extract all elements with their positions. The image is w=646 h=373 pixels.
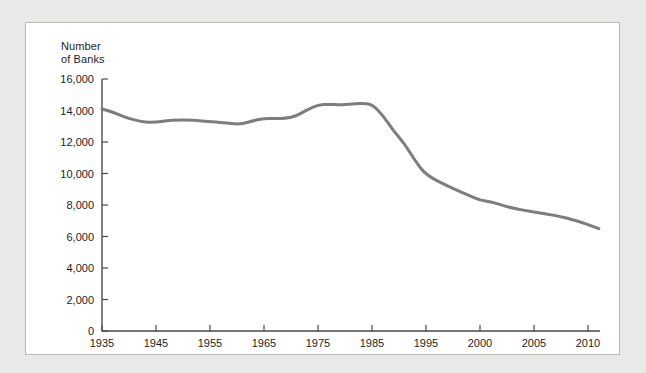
x-axis-ticks: 1935194519551965197519851995200020052010 <box>90 325 600 349</box>
line-chart: 02,0004,0006,0008,00010,00012,00014,0001… <box>26 23 621 356</box>
y-tick-label: 14,000 <box>60 105 94 117</box>
x-tick-label: 2005 <box>522 337 546 349</box>
y-axis-ticks: 02,0004,0006,0008,00010,00012,00014,0001… <box>60 73 108 337</box>
y-tick-label: 0 <box>88 325 94 337</box>
y-tick-label: 4,000 <box>66 262 94 274</box>
y-tick-label: 2,000 <box>66 294 94 306</box>
x-tick-label: 1985 <box>360 337 384 349</box>
y-tick-label: 12,000 <box>60 136 94 148</box>
y-tick-label: 8,000 <box>66 199 94 211</box>
axis-lines <box>102 79 600 331</box>
y-tick-label: 6,000 <box>66 231 94 243</box>
x-tick-label: 1995 <box>414 337 438 349</box>
x-tick-label: 1945 <box>144 337 168 349</box>
x-tick-label: 2000 <box>468 337 492 349</box>
x-tick-label: 1975 <box>306 337 330 349</box>
figure-panel: Numberof Banks 02,0004,0006,0008,00010,0… <box>25 22 620 355</box>
x-tick-label: 2010 <box>576 337 600 349</box>
x-tick-label: 1955 <box>198 337 222 349</box>
y-tick-label: 16,000 <box>60 73 94 85</box>
x-tick-label: 1935 <box>90 337 114 349</box>
y-tick-label: 10,000 <box>60 168 94 180</box>
data-series-line <box>102 104 599 229</box>
x-tick-label: 1965 <box>252 337 276 349</box>
